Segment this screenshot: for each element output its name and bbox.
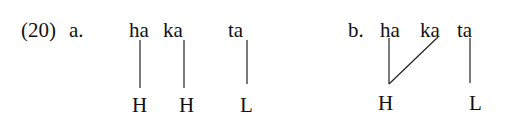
- association-lines: [0, 0, 512, 120]
- association-line-b-2: [389, 37, 438, 84]
